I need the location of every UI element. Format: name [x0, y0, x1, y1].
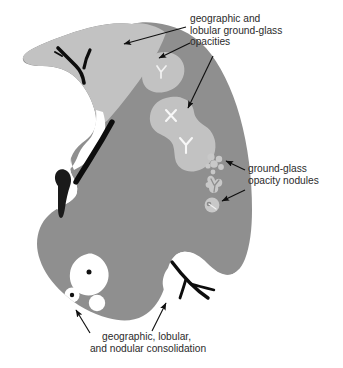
- lung-diagram-figure: geographic and lobular ground-glass opac…: [0, 0, 343, 368]
- label-consolidation: geographic, lobular, and nodular consoli…: [90, 331, 206, 354]
- label-ground-glass-opacity-nodules: ground-glass opacity nodules: [248, 163, 319, 186]
- consolidation-small-dotted: [64, 287, 79, 302]
- label-nodules-line-1: ground-glass: [248, 163, 307, 174]
- label-ggo-line-1: geographic and: [190, 13, 261, 24]
- consolidation-nodular: [89, 295, 105, 311]
- lung-diagram-canvas: geographic and lobular ground-glass opac…: [0, 0, 343, 368]
- label-consolidation-line-2: and nodular consolidation: [90, 343, 206, 354]
- arrow-to-consolidation-left: [76, 310, 90, 333]
- label-consolidation-line-1: geographic, lobular,: [102, 331, 191, 342]
- label-ggo-line-3: opacities: [190, 36, 230, 47]
- label-ground-glass-opacities: geographic and lobular ground-glass opac…: [190, 13, 285, 47]
- nodule-solitary: [205, 198, 220, 213]
- label-ggo-line-2: lobular ground-glass: [190, 25, 282, 36]
- arrow-to-consolidation-right: [152, 303, 166, 331]
- label-nodules-line-2: opacity nodules: [248, 175, 319, 186]
